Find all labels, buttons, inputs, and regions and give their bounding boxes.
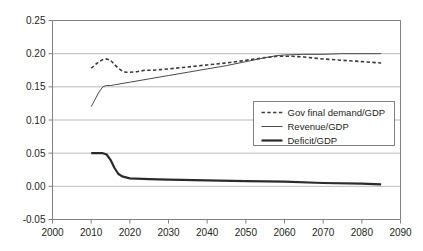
xtick-label: 2000 [41,227,64,238]
ytick-label: 0.00 [26,181,46,192]
series-line-deficit-gdp [91,153,381,184]
ytick-label: 0.25 [26,15,46,26]
xtick-label: 2050 [235,227,258,238]
legend-label-1: Revenue/GDP [288,121,349,132]
xtick-label: 2020 [119,227,142,238]
legend-label-0: Gov final demand/GDP [288,107,386,118]
legend-label-2: Deficit/GDP [288,135,338,146]
ytick-label: 0.20 [26,48,46,59]
xtick-label: 2060 [273,227,296,238]
series-line-gov-final-demand-gdp [91,56,381,72]
xtick-label: 2030 [157,227,180,238]
xtick-label: 2040 [196,227,219,238]
ytick-label: 0.15 [26,81,46,92]
xtick-label: 2070 [312,227,335,238]
ytick-label: -0.05 [23,214,46,225]
ytick-label: 0.10 [26,115,46,126]
xtick-label: 2010 [80,227,103,238]
xtick-label: 2090 [389,227,412,238]
ytick-label: 0.05 [26,148,46,159]
xtick-label: 2080 [351,227,374,238]
line-chart: -0.050.000.050.100.150.200.2520002010202… [0,0,423,251]
chart-container: -0.050.000.050.100.150.200.2520002010202… [0,0,423,251]
